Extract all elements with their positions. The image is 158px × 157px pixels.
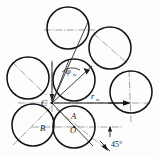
ray-C-to-top-circle	[52, 22, 88, 103]
axis-diagonal-left	[12, 62, 46, 95]
circle-left	[7, 57, 49, 99]
label-r: r	[91, 91, 95, 101]
label-r-subscript: m	[96, 97, 100, 102]
label-phi-subscript: m	[73, 72, 77, 77]
circle-middle	[53, 59, 95, 101]
arrowhead-group	[50, 68, 113, 151]
axis-diagonal-top-right	[94, 34, 127, 63]
circle-top	[47, 7, 89, 49]
label-O: O	[70, 125, 76, 135]
angle-45-leader	[100, 141, 110, 151]
label-phi: φ	[66, 66, 71, 76]
label-B: B	[40, 123, 45, 133]
label-C: C	[41, 98, 48, 108]
label-angle-45: 45°	[111, 140, 122, 149]
figure-container: C A B O φ m r m 45°	[0, 0, 158, 157]
geometric-diagram: C A B O φ m r m 45°	[0, 0, 158, 157]
label-A: A	[70, 111, 77, 121]
point-C-marker	[51, 102, 54, 105]
circle-top-right	[89, 27, 131, 69]
axis-vertical-right	[129, 70, 131, 122]
circle-right	[110, 71, 152, 113]
